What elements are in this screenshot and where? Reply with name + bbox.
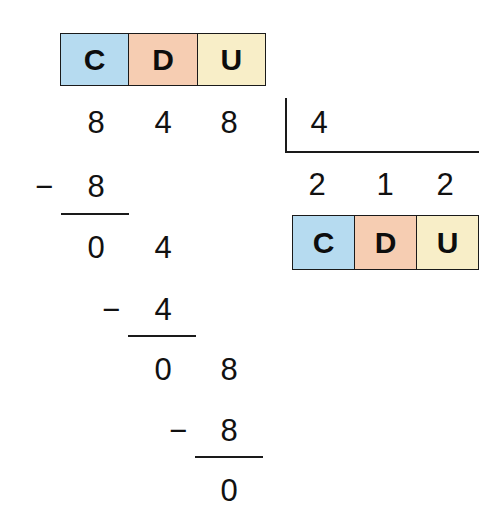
divisor-digit: 4 bbox=[302, 106, 336, 140]
step1-subtrahend: 8 bbox=[79, 170, 113, 204]
step2-subtrahend: 4 bbox=[146, 293, 180, 327]
step2-subtraction-rule bbox=[128, 335, 196, 337]
place-value-label-units: U bbox=[220, 43, 242, 77]
place-value-cell-tens: D bbox=[129, 34, 197, 85]
quotient-place-value-label-hundreds: C bbox=[313, 226, 335, 260]
divisor-bracket-horizontal bbox=[285, 151, 479, 153]
step1-result-hundreds: 0 bbox=[79, 231, 113, 265]
place-value-label-tens: D bbox=[152, 43, 174, 77]
place-value-label-hundreds: C bbox=[84, 43, 106, 77]
quotient-place-value-cell-units: U bbox=[417, 216, 478, 269]
step1-subtraction-rule bbox=[61, 213, 129, 215]
step1-minus-sign: − bbox=[27, 170, 61, 204]
place-value-cell-units: U bbox=[198, 34, 265, 85]
long-division-worksheet: C D U 8 4 8 4 2 1 2 C D U − 8 0 4 − 4 0 bbox=[0, 0, 496, 525]
quotient-digit-hundreds: 2 bbox=[300, 168, 334, 202]
quotient-place-value-cell-tens: D bbox=[355, 216, 417, 269]
step2-minus-sign: − bbox=[94, 293, 128, 327]
dividend-digit-units: 8 bbox=[212, 106, 246, 140]
place-value-cell-hundreds: C bbox=[61, 34, 129, 85]
step3-subtrahend: 8 bbox=[212, 414, 246, 448]
dividend-digit-hundreds: 8 bbox=[79, 106, 113, 140]
dividend-digit-tens: 4 bbox=[146, 106, 180, 140]
step3-result-units: 0 bbox=[212, 474, 246, 508]
step1-result-tens: 4 bbox=[146, 231, 180, 265]
quotient-place-value-label-tens: D bbox=[375, 226, 397, 260]
quotient-digit-units: 2 bbox=[428, 168, 462, 202]
step3-subtraction-rule bbox=[195, 456, 263, 458]
step2-result-tens: 0 bbox=[146, 353, 180, 387]
quotient-place-value-label-units: U bbox=[437, 226, 459, 260]
step3-minus-sign: − bbox=[161, 414, 195, 448]
place-value-header-bottom: C D U bbox=[292, 215, 479, 270]
step2-result-units: 8 bbox=[212, 353, 246, 387]
divisor-bracket-vertical bbox=[285, 98, 287, 153]
quotient-digit-tens: 1 bbox=[368, 168, 402, 202]
quotient-place-value-cell-hundreds: C bbox=[293, 216, 355, 269]
place-value-header-top: C D U bbox=[60, 33, 266, 86]
